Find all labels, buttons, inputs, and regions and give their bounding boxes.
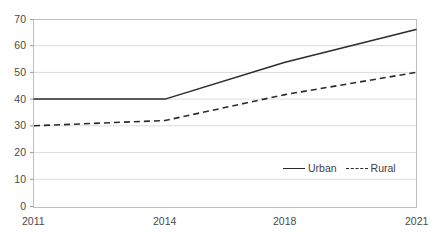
- chart-legend: Urban Rural: [283, 162, 396, 174]
- legend-item-urban: Urban: [283, 162, 337, 174]
- legend-item-rural: Rural: [346, 162, 396, 174]
- y-tick-label-60: 60: [2, 40, 26, 51]
- y-tick-label-10: 10: [2, 174, 26, 185]
- legend-line-solid-icon: [283, 164, 305, 173]
- y-tick-label-0: 0: [2, 201, 26, 212]
- x-tick-label-2018: 2018: [273, 216, 296, 227]
- x-tick-label-2021: 2021: [405, 216, 428, 227]
- y-tick-label-40: 40: [2, 94, 26, 105]
- y-tick-label-50: 50: [2, 67, 26, 78]
- y-axis-ticks: [30, 20, 34, 207]
- x-tick-label-2011: 2011: [22, 216, 45, 227]
- line-chart: 70 60 50 40 30 20 10 0 2011 2014 2018 20…: [0, 0, 441, 237]
- y-tick-label-30: 30: [2, 120, 26, 131]
- legend-line-dashed-icon: [346, 164, 368, 173]
- plot-area: [0, 0, 441, 237]
- y-tick-label-70: 70: [2, 14, 26, 25]
- legend-label-urban: Urban: [308, 162, 337, 174]
- y-tick-label-20: 20: [2, 147, 26, 158]
- legend-label-rural: Rural: [371, 162, 396, 174]
- x-tick-label-2014: 2014: [153, 216, 176, 227]
